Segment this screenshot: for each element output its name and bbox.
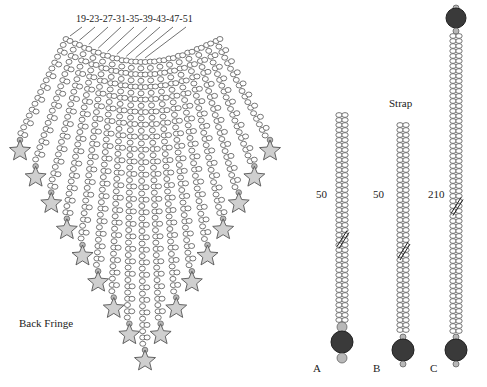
- strap-label: Strap: [389, 97, 412, 109]
- strand-count-labels: 19-23-27-31-35-39-43-47-51: [76, 13, 193, 24]
- strap-c-label: C: [430, 362, 437, 374]
- strap-a: [331, 113, 353, 363]
- strap-a-count: 50: [316, 188, 327, 200]
- strap-a-label: A: [313, 362, 321, 374]
- strap-c-count: 210: [428, 188, 445, 200]
- back-fringe-label: Back Fringe: [19, 317, 73, 329]
- strap-b-label: B: [373, 362, 380, 374]
- strap-b-count: 50: [373, 188, 384, 200]
- strap-b: [392, 123, 414, 367]
- strap-c: [445, 5, 467, 367]
